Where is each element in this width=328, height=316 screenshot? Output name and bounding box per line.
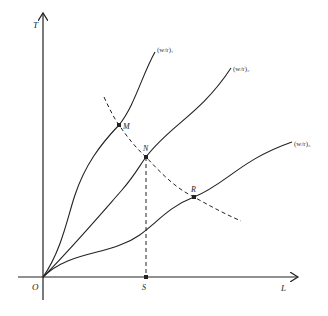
point-m-label: M [122, 122, 131, 131]
point-n-marker [144, 155, 148, 159]
curve-2-line [43, 68, 231, 277]
x-axis-label: L [280, 283, 286, 293]
point-r-label: R [190, 185, 196, 194]
point-m-marker [117, 123, 121, 127]
origin-label: O [32, 282, 39, 292]
y-axis-label: T [33, 20, 39, 30]
curve-1-line [43, 52, 155, 277]
dashed-isocurve [104, 97, 241, 221]
curve-2-label: (w/r)₂ [233, 65, 250, 73]
curve-3-line [43, 142, 292, 277]
curve-3-label: (w/r)₃ [294, 140, 311, 148]
diagram-canvas: T L O M N R S (w/r)₁ (w/r)₂ (w/r)₃ [0, 0, 328, 316]
point-r-marker [192, 195, 196, 199]
curve-1-label: (w/r)₁ [157, 46, 173, 54]
point-s-label: S [142, 283, 146, 292]
point-s-marker [144, 275, 148, 279]
point-n-label: N [142, 144, 149, 153]
